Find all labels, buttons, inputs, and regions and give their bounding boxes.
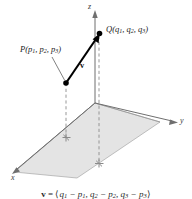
point-label-q: Q(q1, q2, q3) xyxy=(106,25,148,34)
y-axis-label: y xyxy=(180,117,184,125)
point-dot-q xyxy=(97,31,103,37)
x-axis-label: x xyxy=(11,174,15,182)
vector-label-v: v xyxy=(80,61,84,70)
y-axis-arrowhead xyxy=(169,120,178,125)
caption-term-1: q1 − p1 xyxy=(59,189,85,199)
diagram-canvas xyxy=(0,0,192,199)
z-axis-label: z xyxy=(88,3,91,11)
xy-plane-surface xyxy=(14,103,160,178)
caption-term-2: q2 − p2 xyxy=(90,189,116,199)
figure-caption: v = ⟨q1 − p1, q2 − p2, q3 − p3⟩ xyxy=(0,190,192,199)
point-label-p: P(p1, p2, p3) xyxy=(20,45,61,54)
caption-equals: = xyxy=(46,189,56,199)
caption-close-bracket: ⟩ xyxy=(147,189,151,199)
caption-term-3: q3 − p3 xyxy=(121,189,147,199)
vector-diagram-figure: z y x P(p1, p2, p3) Q(q1, q2, q3) v v = … xyxy=(0,0,192,199)
p-label-leader-line xyxy=(52,57,65,80)
z-axis-arrowhead xyxy=(92,10,97,18)
point-dot-p xyxy=(63,80,69,86)
